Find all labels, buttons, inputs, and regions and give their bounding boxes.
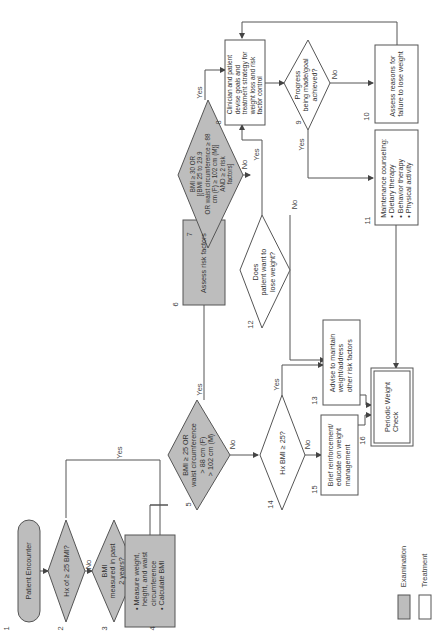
edge-label-9-yes: Yes: [297, 138, 306, 150]
step-number-7: 7: [185, 232, 194, 236]
node-10-text: Assess reasons for failure to lose weigh…: [388, 51, 405, 117]
decision-progress: Progress being made/goal achieved?: [284, 40, 330, 130]
step-number-12: 12: [246, 320, 255, 328]
node-16-text: Periodic Weight Check: [384, 382, 401, 432]
node-13-text: Advise to maintain weight/address other …: [329, 333, 354, 392]
node-4-text: • Measure weight, height, and waist circ…: [133, 552, 167, 610]
node-patient-encounter: Patient Encounter: [18, 520, 40, 622]
node-5-text: BMI ≥ 25 OR waist circumference > 88 cm …: [182, 423, 216, 487]
edge-label-9-no: No: [330, 70, 339, 80]
step-number-15: 15: [310, 485, 319, 493]
node-2-text: Hx of ≥ 25 BMI?: [62, 545, 70, 596]
box-measure: • Measure weight, height, and waist circ…: [125, 535, 175, 627]
step-number-6: 6: [171, 302, 180, 306]
decision-want-lose: Does patient want to lose weight?: [240, 215, 290, 328]
node-7-text: BMI ≥ 30 OR [(BMI 25 to 29.9 OR waist ci…: [188, 134, 232, 215]
step-number-2: 2: [56, 626, 65, 630]
step-number-13: 13: [310, 396, 319, 404]
node-15-text: Brief reinforcement/ educate on weight m…: [327, 424, 352, 487]
node-9-text: Progress being made/goal achieved?: [294, 58, 319, 111]
node-3-text: BMI measured in past 2 years?: [101, 543, 126, 598]
edge-label-7-no: No: [240, 160, 249, 170]
decision-bmi-waist: BMI ≥ 25 OR waist circumference > 88 cm …: [168, 400, 230, 510]
step-number-11: 11: [363, 217, 372, 225]
edge-label-2-no: No: [84, 560, 93, 570]
edge-label-7-yes: Yes: [195, 86, 204, 98]
node-14-text: Hx BMI ≥ 25?: [278, 431, 286, 475]
step-number-8: 8: [214, 120, 223, 124]
step-number-3: 3: [100, 626, 109, 630]
box-brief-reinforcement: Brief reinforcement/ educate on weight m…: [321, 415, 358, 495]
node-1-text: Patient Encounter: [25, 542, 33, 599]
box-maintenance: Maintenance counseling: • Dietary therap…: [375, 130, 418, 225]
edge-label-5-yes: Yes: [195, 383, 204, 395]
step-number-4: 4: [148, 626, 157, 630]
box-advise-maintain: Advise to maintain weight/address other …: [323, 320, 360, 405]
step-number-9: 9: [294, 120, 303, 124]
decision-hx-bmi-25: Hx BMI ≥ 25?: [260, 395, 305, 510]
step-number-5: 5: [184, 502, 193, 506]
node-8-text: Clinician and patient devise goals and t…: [226, 51, 264, 114]
legend-treatment: Treatment: [420, 554, 429, 588]
box-periodic-weight-check: Periodic Weight Check: [371, 368, 413, 446]
edge-label-14-no: No: [303, 440, 312, 450]
legend-examination: Examination: [399, 546, 408, 587]
edge-label-5-no: No: [228, 440, 237, 450]
edge-label-2-yes: Yes: [115, 446, 124, 458]
edge-label-14-yes: Yes: [272, 378, 281, 390]
decision-hx-bmi: Hx of ≥ 25 BMI?: [48, 520, 85, 622]
step-number-1: 1: [2, 626, 11, 630]
node-11-text: Maintenance counseling: • Dietary therap…: [380, 138, 414, 218]
step-number-10: 10: [362, 112, 371, 120]
step-number-14: 14: [266, 500, 275, 508]
box-devise-goals: Clinician and patient devise goals and t…: [225, 40, 265, 125]
edge-label-12-no: No: [290, 200, 299, 210]
box-assess-reasons: Assess reasons for failure to lose weigh…: [375, 45, 418, 123]
step-number-16: 16: [358, 436, 367, 444]
edge-label-12-yes: Yes: [252, 148, 261, 160]
node-12-text: Does patient want to lose weight?: [252, 248, 277, 295]
